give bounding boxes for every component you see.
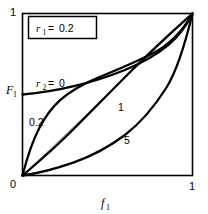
y-tick-label-bottom: 0 <box>10 178 16 190</box>
chart-svg: r 1 = 0.2 r 2 = 0 0.2 1 5 1 0 1 F 1 f 1 <box>0 0 208 214</box>
annotation-param-subscript: 1 <box>43 28 47 37</box>
annotation-param-symbol: r <box>36 22 41 34</box>
curve-label-r2-equals: = <box>48 77 54 89</box>
curve-label-r2-subscript: 2 <box>43 83 47 92</box>
chart-figure: r 1 = 0.2 r 2 = 0 0.2 1 5 1 0 1 F 1 f 1 <box>0 0 208 214</box>
x-axis-title-subscript: 1 <box>106 203 110 212</box>
curve-label-r2-1: 1 <box>118 101 124 113</box>
curve-label-r2-0p2: 0.2 <box>29 116 44 128</box>
curve-label-r2-symbol: r <box>36 77 41 89</box>
curve-label-r2-zero-value: 0 <box>59 77 65 89</box>
x-tick-label-right: 1 <box>189 180 195 192</box>
y-axis-title-subscript: 1 <box>13 90 17 99</box>
annotation-param-value: 0.2 <box>59 22 74 34</box>
annotation-equals-sign: = <box>48 22 54 34</box>
y-tick-label-top: 1 <box>10 6 16 18</box>
curve-label-r2-5: 5 <box>124 134 130 146</box>
